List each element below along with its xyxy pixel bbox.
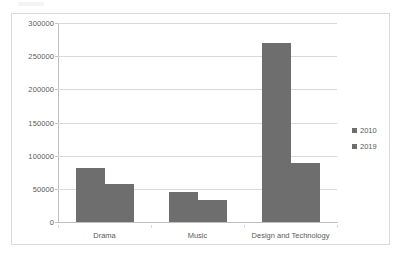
legend-swatch-2019 [352, 144, 357, 149]
x-tick-mark-3 [337, 225, 338, 228]
y-tick-label-50000: 50000 [33, 184, 54, 193]
x-axis-category-labels: Drama Music Design and Technology [58, 225, 338, 245]
chart-legend: 2010 2019 [352, 122, 398, 154]
bar-music-2010[interactable] [169, 192, 198, 222]
bar-drama-2019[interactable] [105, 184, 134, 222]
legend-item-2010[interactable]: 2010 [352, 122, 398, 138]
bar-group-music [151, 23, 244, 222]
y-tick-label-250000: 250000 [28, 52, 54, 61]
y-tick-label-100000: 100000 [28, 151, 54, 160]
bar-group-drama [58, 23, 151, 222]
chart-frame: 300000 250000 200000 150000 100000 50000… [11, 13, 390, 245]
bar-music-2019[interactable] [198, 200, 227, 222]
bar-design-and-technology-2019[interactable] [291, 163, 320, 222]
legend-label-2010: 2010 [360, 126, 377, 135]
x-tick-mark-2 [244, 225, 245, 228]
bar-drama-2010[interactable] [76, 168, 105, 222]
legend-item-2019[interactable]: 2019 [352, 138, 398, 154]
x-tick-mark-1 [151, 225, 152, 228]
legend-label-2019: 2019 [360, 142, 377, 151]
y-tick-label-0: 0 [50, 218, 54, 227]
plot-area [58, 23, 337, 222]
bar-group-design-and-technology [244, 23, 337, 222]
y-tick-label-200000: 200000 [28, 85, 54, 94]
legend-swatch-2010 [352, 128, 357, 133]
x-axis-line [58, 222, 338, 223]
scan-artifact-top-left [18, 2, 44, 6]
chart-screenshot: 300000 250000 200000 150000 100000 50000… [0, 0, 403, 258]
x-category-label-music: Music [188, 231, 208, 240]
bar-design-and-technology-2010[interactable] [262, 43, 291, 222]
y-tick-label-300000: 300000 [28, 19, 54, 28]
x-category-label-design-and-technology: Design and Technology [252, 231, 330, 240]
x-tick-mark-0 [58, 225, 59, 228]
x-category-label-drama: Drama [93, 231, 116, 240]
y-tick-label-150000: 150000 [28, 118, 54, 127]
y-axis-tick-labels: 300000 250000 200000 150000 100000 50000… [12, 14, 54, 246]
